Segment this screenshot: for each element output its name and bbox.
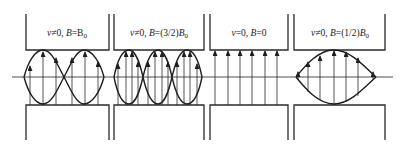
magnetic-lens-diagram: v≠0, B=B0 v≠0, B=(3/2)B0: [0, 0, 405, 151]
beam-rays: [298, 51, 373, 105]
lower-pole-piece: [210, 105, 288, 140]
beam-rays: [118, 52, 197, 105]
lower-pole-piece: [294, 105, 385, 140]
panel-label: v≠0, B=B0: [47, 28, 87, 40]
panel-label: v=0, B=0: [232, 28, 267, 38]
lower-pole-piece: [26, 105, 109, 140]
beam-rays: [215, 51, 277, 105]
panel-label: v≠0, B=(1/2)B0: [311, 28, 369, 40]
panel-label: v≠0, B=(3/2)B0: [130, 28, 188, 40]
lower-pole-piece: [114, 105, 204, 140]
beam-rays: [30, 52, 98, 105]
